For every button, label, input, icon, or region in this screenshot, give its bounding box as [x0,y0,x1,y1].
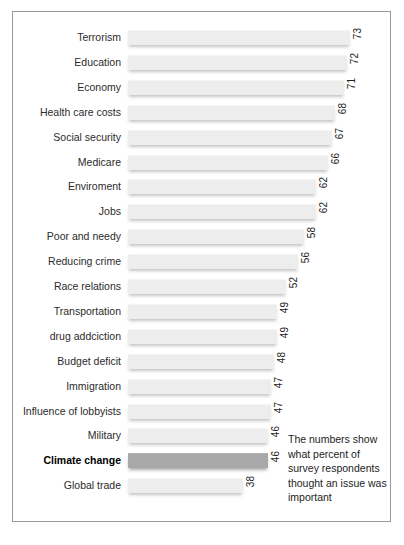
bar-row: Immigration47 [13,374,390,399]
bar-value-label: 62 [319,202,329,213]
bar-track: 58 [128,224,371,249]
bar [128,80,344,95]
bar [128,179,316,194]
bar-row: Health care costs68 [13,100,390,125]
bar-track: 67 [128,125,371,150]
bar-track: 47 [128,399,371,424]
bar [128,105,335,120]
bar [128,229,304,244]
bar [128,404,271,419]
bar-category-label: Medicare [13,150,121,175]
bar-row: Enviroment62 [13,174,390,199]
bar-value-label: 47 [274,377,284,388]
bar-value-label: 56 [301,252,311,263]
bar-category-label: Climate change [13,448,121,473]
bar-category-label: Social security [13,125,121,150]
bar-category-label: Poor and needy [13,224,121,249]
bar [128,428,268,443]
bar [128,379,271,394]
bar-value-label: 38 [246,476,256,487]
bar-track: 52 [128,274,371,299]
bar [128,304,277,319]
bar-value-label: 47 [274,402,284,413]
bar-category-label: Transportation [13,299,121,324]
bar-category-label: Race relations [13,274,121,299]
bar [128,453,268,468]
bar [128,55,347,70]
bar-row: Education72 [13,50,390,75]
bar-value-label: 58 [307,227,317,238]
bar-value-label: 49 [280,302,290,313]
bar [128,329,277,344]
bar-category-label: Military [13,423,121,448]
bar [128,30,350,45]
bar-row: Influence of lobbyists47 [13,399,390,424]
bar-track: 72 [128,50,371,75]
bar-value-label: 52 [289,277,299,288]
chart-frame: Terrorism73Education72Economy71Health ca… [12,11,391,522]
bar-value-label: 62 [319,177,329,188]
bar-value-label: 48 [277,352,287,363]
bar-value-label: 71 [347,78,357,89]
bar-row: Terrorism73 [13,25,390,50]
bar-track: 62 [128,199,371,224]
bar-category-label: Global trade [13,473,121,498]
bar [128,279,286,294]
bar-track: 71 [128,75,371,100]
bar-value-label: 49 [280,327,290,338]
bar-category-label: Jobs [13,199,121,224]
bar-row: Reducing crime56 [13,249,390,274]
bar-row: drug addciction49 [13,324,390,349]
bar-category-label: Influence of lobbyists [13,399,121,424]
bar-value-label: 68 [338,103,348,114]
bar-track: 62 [128,174,371,199]
bar-value-label: 46 [271,426,281,437]
bar-category-label: Budget deficit [13,349,121,374]
bar-row: Social security67 [13,125,390,150]
bar-value-label: 46 [271,451,281,462]
bar-value-label: 73 [353,28,363,39]
bar [128,204,316,219]
bar-value-label: 72 [350,53,360,64]
bar-row: Transportation49 [13,299,390,324]
bar-category-label: Terrorism [13,25,121,50]
bar-row: Jobs62 [13,199,390,224]
bar-row: Budget deficit48 [13,349,390,374]
bar-value-label: 66 [331,153,341,164]
bar-category-label: Education [13,50,121,75]
bar-track: 68 [128,100,371,125]
bar-category-label: Reducing crime [13,249,121,274]
bar-row: Poor and needy58 [13,224,390,249]
bar-value-label: 67 [335,128,345,139]
bar-category-label: Immigration [13,374,121,399]
bar [128,354,274,369]
bar [128,478,243,493]
bar [128,155,328,170]
bar-track: 49 [128,299,371,324]
bar-track: 56 [128,249,371,274]
bar-row: Economy71 [13,75,390,100]
bar-row: Race relations52 [13,274,390,299]
bar-track: 48 [128,349,371,374]
chart-annotation: The numbers show what percent of survey … [288,432,392,505]
bar-track: 73 [128,25,371,50]
bar [128,254,298,269]
bar-track: 49 [128,324,371,349]
bar-row: Medicare66 [13,150,390,175]
bar [128,130,332,145]
bar-track: 47 [128,374,371,399]
bar-category-label: Economy [13,75,121,100]
bar-track: 66 [128,150,371,175]
bar-category-label: Health care costs [13,100,121,125]
bar-category-label: drug addciction [13,324,121,349]
bar-category-label: Enviroment [13,174,121,199]
